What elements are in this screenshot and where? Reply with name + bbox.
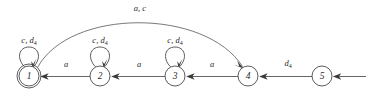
transition-4-to-3-label-main: a bbox=[210, 59, 214, 69]
state-node-1[interactable]: 1 bbox=[17, 64, 41, 88]
arc-transition-label: a, c bbox=[134, 3, 147, 13]
transition-3-to-2-label-main: a bbox=[137, 59, 141, 69]
self-loop-state-2-label: c, d4 bbox=[92, 35, 107, 46]
transition-4-to-3: a bbox=[186, 59, 238, 80]
state-5-label: 5 bbox=[320, 71, 325, 81]
transition-5-to-4: d4 bbox=[259, 58, 312, 80]
state-3-label: 3 bbox=[172, 71, 178, 81]
self-loop-state-3-path bbox=[166, 47, 185, 67]
transition-3-to-2-label: a bbox=[137, 59, 141, 69]
automaton-canvas: a, c c, d4 c, d4 c, d4 bbox=[0, 0, 366, 94]
self-loop-state-2-label-sub: 4 bbox=[105, 40, 108, 46]
self-loop-state-3-label-main: c, d bbox=[167, 35, 180, 45]
arc-transition-arrowhead bbox=[234, 61, 244, 69]
self-loop-state-2-path bbox=[91, 47, 110, 67]
state-node-2[interactable]: 2 bbox=[90, 66, 110, 86]
self-loop-state-1-label-sub: 4 bbox=[34, 40, 37, 46]
self-loop-state-1-label-main: c, d bbox=[21, 35, 34, 45]
state-node-4[interactable]: 4 bbox=[238, 66, 258, 86]
transition-5-to-4-label-sub: 4 bbox=[289, 63, 292, 69]
transition-2-to-1-label-main: a bbox=[64, 59, 68, 69]
state-4-label: 4 bbox=[246, 71, 251, 81]
arc-transition-label-main: a, c bbox=[134, 3, 147, 13]
self-loop-state-3-label: c, d4 bbox=[167, 35, 182, 46]
state-2-label: 2 bbox=[98, 71, 103, 81]
self-loop-state-3-label-sub: 4 bbox=[180, 40, 183, 46]
self-loop-state-2-label-main: c, d bbox=[92, 35, 105, 45]
transition-2-to-1: a bbox=[40, 59, 90, 80]
self-loop-state-2: c, d4 bbox=[91, 35, 110, 68]
automaton-diagram: a, c c, d4 c, d4 c, d4 bbox=[0, 0, 366, 94]
state-node-3[interactable]: 3 bbox=[165, 66, 185, 86]
transition-2-to-1-label: a bbox=[64, 59, 68, 69]
state-1-label: 1 bbox=[27, 71, 32, 81]
state-node-5[interactable]: 5 bbox=[312, 66, 332, 86]
self-loop-state-1-label: c, d4 bbox=[21, 35, 36, 46]
transition-4-to-3-label: a bbox=[210, 59, 214, 69]
start-arrow-state-5 bbox=[333, 73, 366, 80]
self-loop-state-3: c, d4 bbox=[166, 35, 185, 68]
transition-3-to-2: a bbox=[111, 59, 165, 80]
self-loop-state-1: c, d4 bbox=[20, 35, 39, 68]
transition-5-to-4-label: d4 bbox=[284, 58, 291, 69]
